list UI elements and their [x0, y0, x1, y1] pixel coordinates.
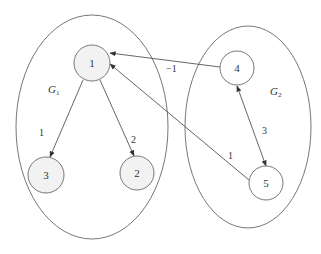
node-label: 3 — [43, 169, 49, 181]
edge-arrow — [100, 80, 134, 156]
node-label: 5 — [263, 177, 269, 189]
node-1: 1 — [74, 45, 110, 81]
edge-4-5: 3 — [237, 86, 267, 166]
edge-weight-label: −1 — [166, 63, 177, 74]
edge-1-3: 1 — [39, 80, 83, 157]
graph-diagram: G1G2 12−113 12345 — [0, 0, 321, 254]
node-label: 4 — [234, 62, 240, 74]
node-label: 2 — [134, 167, 140, 179]
edge-weight-label: 1 — [228, 150, 233, 161]
node-4: 4 — [220, 51, 254, 85]
group-label: G2 — [270, 85, 282, 99]
edge-weight-label: 3 — [262, 125, 267, 136]
node-2: 2 — [120, 156, 154, 190]
edge-1-2: 2 — [100, 80, 136, 156]
node-5: 5 — [249, 166, 283, 200]
group-label: G1 — [48, 83, 60, 97]
edge-weight-label: 2 — [131, 134, 136, 145]
edge-weight-label: 1 — [39, 127, 44, 138]
node-label: 1 — [89, 57, 95, 69]
node-3: 3 — [28, 157, 64, 193]
